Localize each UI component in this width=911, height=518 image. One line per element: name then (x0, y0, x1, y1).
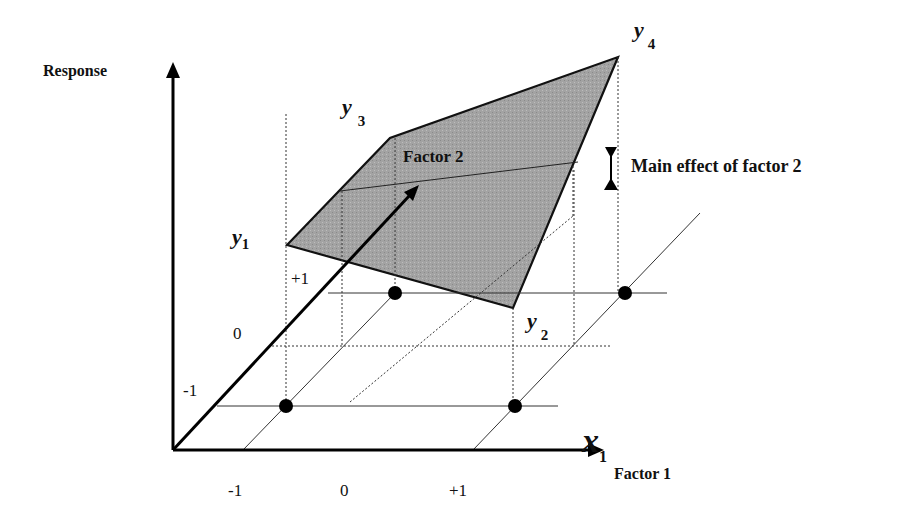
factor1-tick-plus1: +1 (449, 482, 467, 499)
y1-label: y1 (232, 226, 249, 248)
factor2-tick-0: 0 (233, 325, 242, 342)
design-points (279, 286, 632, 413)
factorial-diagram (0, 0, 911, 518)
y4-label: y4 (634, 19, 651, 41)
factor2-tick-plus1: +1 (291, 270, 309, 287)
main-effect-marker-icon (604, 147, 618, 190)
response-axis-label: Response (43, 63, 107, 79)
main-effect-annotation: Main effect of factor 2 (631, 157, 802, 175)
factor1-axis-label: Factor 1 (614, 466, 671, 482)
y3-label: y3 (342, 96, 359, 118)
factor2-tick-minus1: -1 (183, 382, 197, 399)
factor1-tick-0: 0 (340, 482, 349, 499)
response-surface (287, 57, 618, 308)
factor2-axis-label: Factor 2 (403, 148, 464, 165)
response-axis-arrow-icon (166, 62, 180, 78)
factor1-tick-minus1: -1 (228, 482, 242, 499)
y2-label: y2 (527, 310, 544, 332)
x1-symbol: x1 (582, 424, 607, 458)
